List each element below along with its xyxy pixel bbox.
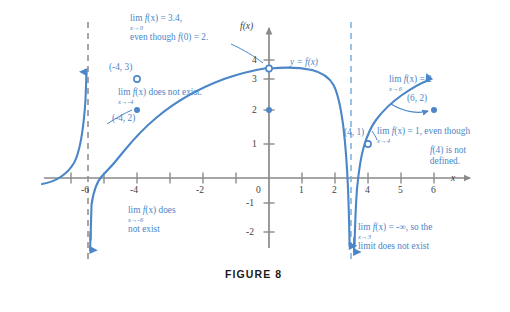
annotation-limit-at-3: lim f(x) = -∞, so the x→3 limit does not… xyxy=(358,222,432,252)
x-axis-label: x xyxy=(451,172,455,183)
leader-limit-at-0 xyxy=(231,44,263,63)
curve-label: y = f(x) xyxy=(290,57,318,67)
annotation-limit-at-4-line2: f(4) is not xyxy=(377,145,470,156)
x-tick-minus-6: -6 xyxy=(81,184,89,195)
annotation-limit-at-minus-4: lim f(x) does not exist. x→-4 xyxy=(118,87,202,106)
y-tick-1: 1 xyxy=(252,138,257,149)
x-axis xyxy=(44,173,470,184)
open-point-4-1 xyxy=(365,141,371,147)
filled-point-0-2 xyxy=(266,107,272,113)
annotation-limit-at-minus-6: lim f(x) does x→-6 not exist xyxy=(128,205,176,235)
annotation-limit-at-0: lim f(x) = 3.4, x→0 even though f(0) = 2… xyxy=(130,13,208,43)
annotation-limit-at-minus-6-line2: not exist xyxy=(128,224,176,235)
y-axis xyxy=(264,28,275,248)
annotation-limit-at-3-sub: x→3 xyxy=(358,232,432,243)
open-point-minus4-3 xyxy=(134,76,140,82)
curve-branch-0-to-3 xyxy=(270,68,350,246)
annotation-limit-at-minus-4-sub: x→-4 xyxy=(118,97,202,108)
x-tick-6: 6 xyxy=(431,184,436,195)
annotation-limit-at-minus-6-sub: x→-6 xyxy=(128,215,176,226)
y-tick-2: 2 xyxy=(252,104,257,115)
y-tick-minus-1: -1 xyxy=(246,197,254,208)
filled-point-6-2 xyxy=(431,107,437,113)
y-axis-label: f(x) xyxy=(240,20,253,31)
curve-branch-left-of-minus6 xyxy=(42,72,87,184)
x-tick-minus-2: -2 xyxy=(196,184,204,195)
annotation-limit-at-6-sub: x→6 xyxy=(389,84,432,95)
point-label-6-2: (6, 2) xyxy=(407,93,427,103)
x-tick-5: 5 xyxy=(398,184,403,195)
figure-caption: FIGURE 8 xyxy=(225,268,282,280)
x-tick-4: 4 xyxy=(365,184,370,195)
annotation-limit-at-4: lim f(x) = 1, even though x→4 f(4) is no… xyxy=(377,126,470,166)
x-tick-0: 0 xyxy=(256,184,261,195)
annotation-limit-at-4-line3: defined. xyxy=(377,156,470,167)
figure-8-limits-graph: f(x) x y = f(x) -6 -4 -2 0 1 2 4 5 6 4 3… xyxy=(0,0,510,312)
point-label-minus4-2: (-4, 2) xyxy=(112,113,135,123)
open-point-0-3point4 xyxy=(266,65,272,71)
leader-limit-at-6 xyxy=(391,104,428,112)
y-tick-4: 4 xyxy=(252,54,257,65)
annotation-limit-at-3-line2: limit does not exist xyxy=(358,241,432,252)
annotation-limit-at-4-sub: x→4 xyxy=(377,136,470,147)
annotation-limit-at-6: lim f(x) = 2 x→6 xyxy=(389,74,432,93)
annotation-limit-at-0-sub: x→0 xyxy=(130,23,208,34)
x-tick-minus-4: -4 xyxy=(130,184,138,195)
annotation-limit-at-0-line2: even though f(0) = 2. xyxy=(130,32,208,43)
y-tick-minus-2: -2 xyxy=(246,226,254,237)
point-label-minus4-3: (-4, 3) xyxy=(109,62,132,72)
point-label-4-1: (4, 1) xyxy=(344,127,364,137)
x-tick-2: 2 xyxy=(332,184,337,195)
y-tick-3: 3 xyxy=(252,73,257,84)
x-tick-1: 1 xyxy=(299,184,304,195)
